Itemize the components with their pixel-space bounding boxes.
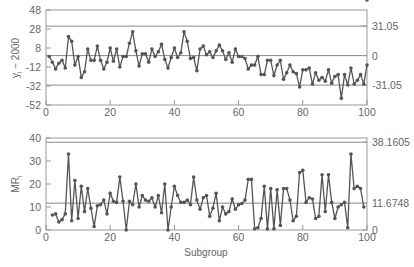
y-tick-label: 28 <box>29 23 41 35</box>
data-point <box>73 63 77 67</box>
data-point <box>166 228 170 232</box>
data-point <box>173 185 177 189</box>
x-tick-label: 60 <box>233 106 245 118</box>
data-point <box>291 70 295 74</box>
data-point <box>176 194 180 198</box>
data-point <box>295 72 299 76</box>
data-point <box>208 50 212 54</box>
data-point <box>80 185 84 189</box>
data-point <box>89 206 93 210</box>
data-point <box>362 82 366 86</box>
data-point <box>205 194 209 198</box>
data-point <box>131 30 135 34</box>
data-point <box>63 212 67 216</box>
data-point <box>298 171 302 175</box>
data-point <box>179 51 183 55</box>
y-tick-label: 8 <box>35 42 41 54</box>
data-point <box>57 220 61 224</box>
data-point <box>314 217 318 221</box>
data-point <box>157 194 161 198</box>
data-point <box>288 63 292 67</box>
data-point <box>333 75 337 79</box>
data-point <box>60 218 64 222</box>
data-point <box>131 203 135 207</box>
data-point <box>243 198 247 202</box>
data-point <box>340 97 344 101</box>
x-tick-label: 100 <box>358 106 376 118</box>
y-tick-label: 40 <box>29 132 41 144</box>
data-point <box>349 66 353 70</box>
data-point <box>76 55 80 59</box>
data-point <box>224 212 228 216</box>
data-point <box>362 205 366 209</box>
control-chart-figure: 48288-12-32-52 020406080100 31.050-31.05… <box>0 0 414 267</box>
data-point <box>311 82 315 86</box>
data-point <box>253 227 257 231</box>
data-point <box>121 55 125 59</box>
data-point <box>198 208 202 212</box>
data-point <box>118 175 122 179</box>
data-point <box>307 66 311 70</box>
data-point <box>105 212 109 216</box>
data-point <box>141 52 145 56</box>
control-limit-label: 31.05 <box>372 20 398 32</box>
data-point <box>128 199 132 203</box>
data-point <box>269 59 273 63</box>
y-tick-label: 20 <box>29 178 41 190</box>
data-point <box>92 59 96 63</box>
control-limit-label: 0 <box>372 50 378 62</box>
data-point <box>108 191 112 195</box>
data-point <box>112 199 116 203</box>
data-point <box>144 198 148 202</box>
individuals-series-line <box>49 32 367 99</box>
data-point <box>76 217 80 221</box>
data-point <box>102 67 106 71</box>
data-point <box>99 59 103 63</box>
data-point <box>330 201 334 205</box>
data-point <box>279 59 283 63</box>
data-point <box>336 205 340 209</box>
data-point <box>137 205 141 209</box>
data-point <box>54 67 58 71</box>
data-point <box>356 185 360 189</box>
data-point <box>346 83 350 87</box>
data-point <box>317 79 321 83</box>
data-point <box>211 206 215 210</box>
data-point <box>169 205 173 209</box>
data-point <box>250 178 254 182</box>
data-point <box>243 57 247 61</box>
data-point <box>185 40 189 44</box>
data-point <box>67 152 71 156</box>
data-point <box>150 47 154 51</box>
y-tick-label: -32 <box>26 80 41 92</box>
data-point <box>269 187 273 191</box>
data-point <box>227 210 231 214</box>
data-point <box>307 196 311 200</box>
data-point <box>51 60 55 64</box>
data-point <box>195 198 199 202</box>
data-point <box>67 35 71 39</box>
data-point <box>272 74 276 78</box>
data-point <box>320 173 324 177</box>
data-point <box>246 178 250 182</box>
data-point <box>51 213 55 217</box>
data-point <box>192 56 196 60</box>
data-point <box>121 199 125 203</box>
data-point <box>340 203 344 207</box>
data-point <box>185 198 189 202</box>
data-point <box>163 58 167 62</box>
data-point <box>327 173 331 177</box>
data-point <box>189 57 193 61</box>
data-point <box>60 59 64 63</box>
data-point <box>124 55 128 59</box>
data-point <box>153 205 157 209</box>
moving-range-control-limit-labels: 38.160511.67480 <box>362 136 410 236</box>
data-point <box>137 64 141 68</box>
data-point <box>314 71 318 75</box>
data-point <box>320 76 324 80</box>
data-point <box>365 0 369 2</box>
data-point <box>118 65 122 69</box>
x-tick-label: 60 <box>233 231 245 243</box>
data-point <box>356 79 360 83</box>
data-point <box>327 68 331 72</box>
